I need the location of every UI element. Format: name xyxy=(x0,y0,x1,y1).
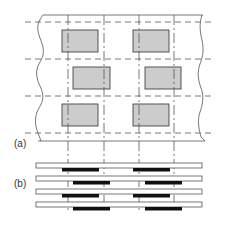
block-r2-c2 xyxy=(145,67,181,89)
bar-s1-2 xyxy=(133,168,170,172)
bar-s1-1 xyxy=(62,168,99,172)
right-break-line xyxy=(198,15,205,141)
strip-1 xyxy=(36,163,202,168)
horizontal-guides xyxy=(25,22,213,133)
label-part-b: (b) xyxy=(14,178,26,189)
strips xyxy=(36,163,202,207)
strip-4 xyxy=(36,202,202,207)
strip-2 xyxy=(36,176,202,181)
block-r1-c2 xyxy=(133,30,169,52)
bar-s3-2 xyxy=(133,194,170,198)
block-r3-c2 xyxy=(133,104,169,126)
bar-s3-1 xyxy=(62,194,99,198)
bar-s2-1 xyxy=(73,181,110,185)
diagram: (a) (b) xyxy=(0,0,228,227)
bar-s4-1 xyxy=(73,207,110,211)
bar-s2-2 xyxy=(145,181,182,185)
block-r1-c1 xyxy=(62,30,98,52)
bar-s4-2 xyxy=(145,207,182,211)
left-break-line xyxy=(36,15,44,141)
strip-3 xyxy=(36,189,202,194)
block-r3-c1 xyxy=(62,104,98,126)
part-a: (a) xyxy=(14,15,213,213)
block-r2-c1 xyxy=(73,67,110,89)
label-part-a: (a) xyxy=(14,138,26,149)
blocks xyxy=(62,30,181,126)
